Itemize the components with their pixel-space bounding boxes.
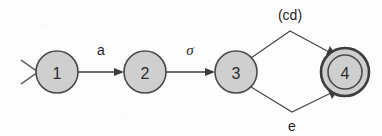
transition-label-e: e bbox=[288, 118, 296, 134]
transition-1-to-2: a bbox=[78, 42, 124, 76]
automaton-diagram-canvas: a σ (cd) e 1 2 bbox=[0, 0, 382, 136]
state-node-4[interactable]: 4 bbox=[321, 48, 369, 96]
state-node-1[interactable]: 1 bbox=[36, 51, 78, 93]
transition-label-a: a bbox=[97, 42, 105, 58]
transition-label-sigma: σ bbox=[186, 42, 194, 58]
arrowhead-icon bbox=[114, 68, 124, 76]
transition-3-to-4-upper: (cd) bbox=[251, 7, 337, 58]
state-label-4: 4 bbox=[341, 65, 350, 82]
transition-2-to-3: σ bbox=[166, 42, 215, 76]
automaton-svg: a σ (cd) e 1 2 bbox=[0, 0, 382, 136]
transition-3-to-4-lower: e bbox=[251, 87, 339, 134]
state-label-3: 3 bbox=[232, 65, 241, 82]
state-label-1: 1 bbox=[53, 65, 62, 82]
arrowhead-icon bbox=[205, 68, 215, 76]
state-node-2[interactable]: 2 bbox=[124, 51, 166, 93]
state-label-2: 2 bbox=[141, 65, 150, 82]
state-node-3[interactable]: 3 bbox=[215, 51, 257, 93]
transition-label-cd: (cd) bbox=[278, 7, 302, 23]
